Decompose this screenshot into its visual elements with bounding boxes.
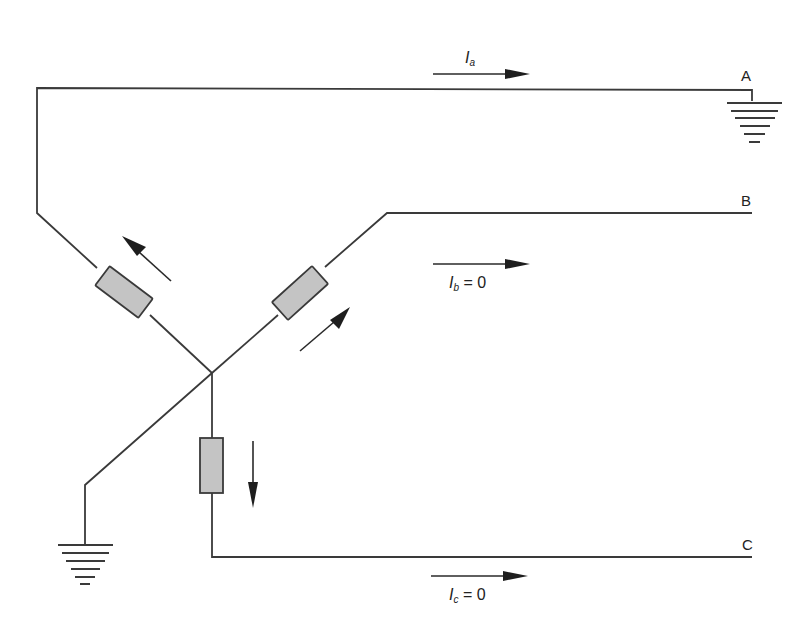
ground-icon-a — [727, 103, 782, 142]
arrow-up-left-icon-branch-a — [122, 236, 171, 281]
phase-c-wire — [212, 493, 752, 557]
current-ib-label: Ib = 0 — [449, 274, 486, 293]
arrow-up-right-icon-branch-b — [300, 307, 350, 351]
phase-c-label: C — [742, 536, 753, 553]
impedance-c — [200, 438, 223, 493]
phase-a-label: A — [741, 67, 751, 84]
current-ic-label: Ic = 0 — [449, 586, 486, 605]
arrow-right-icon-ia — [433, 69, 530, 79]
circuit-diagram — [0, 0, 807, 636]
phase-b-wire — [325, 213, 752, 267]
phase-b-label: B — [741, 192, 751, 209]
ground-icon-neutral — [58, 545, 113, 584]
neutral-ground-wire — [85, 373, 212, 545]
impedance-a — [95, 266, 153, 318]
arrow-right-icon-ic — [431, 571, 528, 581]
phase-a-branch-wire — [150, 315, 212, 373]
arrow-down-icon-branch-c — [248, 441, 258, 508]
phase-a-wire — [37, 88, 752, 268]
phase-b-branch-wire — [212, 315, 278, 373]
impedance-b — [272, 266, 328, 320]
current-ia-label: Ia — [465, 49, 475, 68]
arrow-right-icon-ib — [433, 259, 530, 269]
